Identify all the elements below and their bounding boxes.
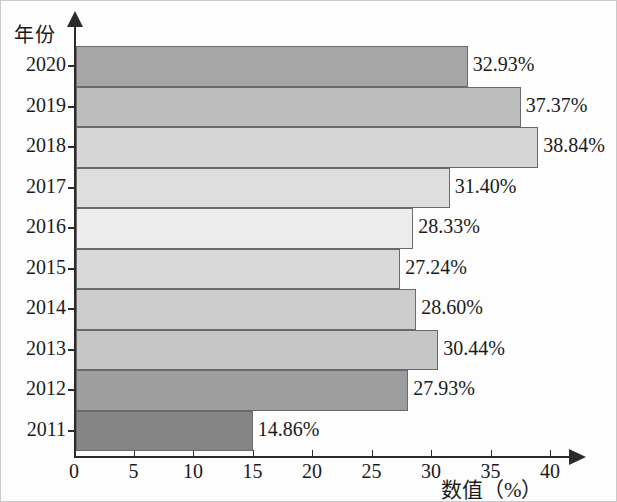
x-tick-mark [253,450,254,457]
bar-value-label-2014: 28.60% [421,296,483,319]
x-tick-label: 5 [114,460,154,483]
x-tick-mark [491,450,492,457]
y-tick-label-2011: 2011 [12,418,66,441]
y-tick-label-2017: 2017 [12,175,66,198]
x-tick-label: 20 [292,460,332,483]
bar-value-label-2015: 27.24% [405,256,467,279]
y-tick-label-2020: 2020 [12,53,66,76]
y-tick-label-2016: 2016 [12,215,66,238]
x-tick-mark [550,450,551,457]
x-tick-label: 0 [54,460,94,483]
x-tick-mark [372,450,373,457]
bar-2014 [76,289,416,330]
bar-chart-figure: 年份 数值（%） 0510152025303540 20202019201820… [0,0,617,502]
bar-value-label-2016: 28.33% [418,215,480,238]
bar-value-label-2012: 27.93% [413,377,475,400]
x-tick-mark [312,450,313,457]
y-tick-label-2013: 2013 [12,337,66,360]
bar-2019 [76,87,521,128]
bar-2013 [76,330,438,371]
bar-2020 [76,46,468,87]
x-tick-label: 40 [530,460,570,483]
y-tick-label-2014: 2014 [12,296,66,319]
x-tick-label: 35 [471,460,511,483]
y-tick-label-2012: 2012 [12,377,66,400]
x-tick-label: 30 [411,460,451,483]
bar-value-label-2017: 31.40% [455,175,517,198]
x-tick-mark [134,450,135,457]
bar-value-label-2011: 14.86% [258,418,320,441]
y-axis-arrow-icon [67,11,83,27]
bar-value-label-2018: 38.84% [543,134,605,157]
x-tick-mark [431,450,432,457]
x-tick-mark [193,450,194,457]
bar-value-label-2020: 32.93% [473,53,535,76]
bar-2017 [76,168,450,209]
x-tick-label: 15 [233,460,273,483]
x-tick-mark [74,450,75,457]
x-tick-label: 10 [173,460,213,483]
bar-value-label-2019: 37.37% [526,94,588,117]
bar-2011 [76,411,253,452]
x-axis-arrow-icon [569,449,586,465]
y-axis-title: 年份 [14,19,56,48]
y-tick-label-2019: 2019 [12,94,66,117]
x-axis-line [74,456,572,458]
bar-value-label-2013: 30.44% [443,337,505,360]
y-tick-label-2018: 2018 [12,134,66,157]
y-tick-label-2015: 2015 [12,256,66,279]
bar-2018 [76,127,538,168]
bar-2012 [76,370,408,411]
bar-2016 [76,208,413,249]
bar-2015 [76,249,400,290]
x-tick-label: 25 [352,460,392,483]
